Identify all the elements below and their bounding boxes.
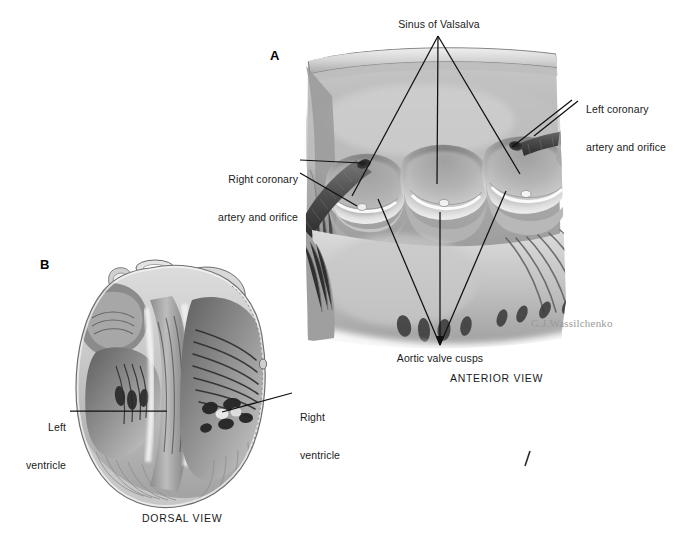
view-name-anterior: ANTERIOR VIEW (450, 372, 543, 384)
label-right-ventricle-line-1: Right (300, 411, 370, 424)
leader-sinus-of-valsalva (352, 36, 520, 196)
label-aortic-valve-cusps: Aortic valve cusps (380, 352, 500, 365)
ventricular-myocardium (296, 224, 630, 360)
label-left-coronary-line-1: Left coronary (586, 103, 686, 116)
label-left-coronary-artery: Left coronary artery and orifice (586, 78, 686, 178)
artist-signature: G.J.Wassilchenko (531, 317, 613, 329)
right-coronary-artery (300, 157, 372, 238)
panel-letter-a: A (270, 48, 279, 63)
label-right-ventricle-line-2: ventricle (300, 449, 370, 462)
label-left-coronary-line-2: artery and orifice (586, 141, 686, 154)
view-name-dorsal: DORSAL VIEW (142, 512, 222, 524)
sinus-center (400, 145, 489, 243)
left-muscular-band (296, 228, 335, 342)
label-right-coronary-line-2: artery and orifice (186, 211, 298, 224)
label-left-ventricle: Left ventricle (0, 396, 66, 496)
sinus-left (325, 154, 408, 248)
label-left-ventricle-line-2: ventricle (0, 459, 66, 472)
sinus-right (482, 136, 570, 235)
panel-letter-b: B (40, 257, 49, 272)
label-left-ventricle-line-1: Left (0, 421, 66, 434)
label-right-coronary-artery: Right coronary artery and orifice (186, 148, 298, 248)
leader-right-coronary (300, 160, 361, 206)
label-right-coronary-line-1: Right coronary (186, 173, 298, 186)
leader-left-coronary (512, 100, 578, 147)
panel-b-artwork (70, 258, 276, 512)
illustration-page: A B Sinus of Valsalva Left coronary arte… (0, 0, 686, 538)
label-right-ventricle: Right ventricle (300, 386, 370, 486)
leader-right-ventricle (222, 393, 292, 412)
great-vessels (109, 260, 246, 310)
leader-aortic-valve-cusps (378, 191, 506, 346)
label-sinus-of-valsalva: Sinus of Valsalva (380, 18, 498, 31)
